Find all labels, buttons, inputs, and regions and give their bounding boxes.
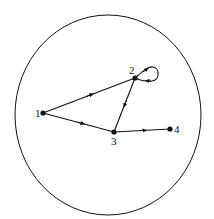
- node-3: [111, 129, 116, 134]
- node-label-2: 2: [129, 64, 135, 76]
- edge-2-3: [114, 78, 135, 132]
- node-label-1: 1: [35, 107, 41, 119]
- node-label-3: 3: [111, 135, 117, 147]
- edge-2-2-loop: [135, 67, 158, 81]
- node-1: [40, 110, 45, 115]
- edge-3-4: [114, 129, 170, 132]
- node-2: [132, 75, 137, 80]
- edge-1-3: [43, 113, 114, 132]
- edge-1-2: [43, 78, 135, 113]
- node-label-4: 4: [174, 123, 180, 135]
- node-4: [167, 126, 172, 131]
- directed-graph-diagram: 1 2 3 4: [0, 0, 214, 219]
